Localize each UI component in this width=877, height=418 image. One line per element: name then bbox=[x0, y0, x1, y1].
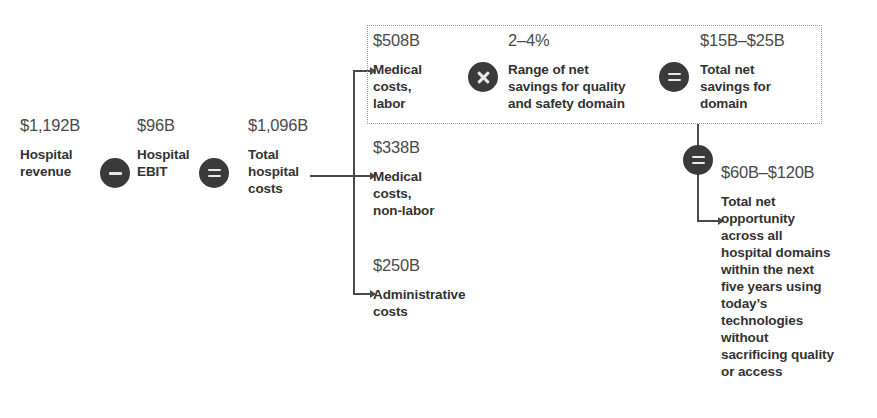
equals-glyph-top bbox=[668, 73, 681, 76]
minus-operator-icon bbox=[100, 158, 130, 188]
node-total-net-opportunity: $60B–$120B Total net opportunity across … bbox=[721, 163, 834, 380]
diagram-canvas: $1,192B Hospital revenue $96B Hospital E… bbox=[0, 0, 877, 418]
equals-glyph-top bbox=[208, 169, 221, 172]
equals-glyph-bottom bbox=[668, 79, 681, 82]
amount-medical-costs-labor: $508B bbox=[373, 31, 422, 50]
amount-medical-costs-nonlabor: $338B bbox=[373, 138, 434, 157]
connector-trunk bbox=[310, 175, 354, 177]
label-total-hospital-costs: Total hospital costs bbox=[248, 146, 308, 197]
connector-arm-total-opportunity bbox=[697, 220, 719, 222]
node-medical-costs-nonlabor: $338B Medical costs, non-labor bbox=[373, 138, 434, 219]
equals-glyph-top bbox=[692, 156, 705, 159]
label-medical-costs-nonlabor: Medical costs, non-labor bbox=[373, 168, 434, 219]
label-total-net-opportunity: Total net opportunity across all hospita… bbox=[721, 193, 834, 380]
amount-hospital-ebit: $96B bbox=[137, 116, 189, 135]
equals-glyph-bottom bbox=[208, 175, 221, 178]
node-hospital-ebit: $96B Hospital EBIT bbox=[137, 116, 189, 180]
multiply-operator-icon bbox=[468, 62, 498, 92]
label-hospital-ebit: Hospital EBIT bbox=[137, 146, 189, 180]
node-administrative-costs: $250B Administrative costs bbox=[373, 256, 465, 320]
equals-operator-icon-2 bbox=[659, 62, 689, 92]
label-range-net-savings: Range of net savings for quality and saf… bbox=[508, 61, 625, 112]
node-medical-costs-labor: $508B Medical costs, labor bbox=[373, 31, 422, 112]
node-range-net-savings: 2–4% Range of net savings for quality an… bbox=[508, 31, 625, 112]
connector-arm-nonlabor bbox=[353, 175, 371, 177]
equals-glyph-bottom bbox=[692, 162, 705, 165]
label-medical-costs-labor: Medical costs, labor bbox=[373, 61, 422, 112]
node-total-hospital-costs: $1,096B Total hospital costs bbox=[248, 116, 308, 197]
amount-total-hospital-costs: $1,096B bbox=[248, 116, 308, 135]
label-administrative-costs: Administrative costs bbox=[373, 286, 465, 320]
amount-hospital-revenue: $1,192B bbox=[20, 116, 80, 135]
node-hospital-revenue: $1,192B Hospital revenue bbox=[20, 116, 80, 180]
amount-total-net-opportunity: $60B–$120B bbox=[721, 163, 834, 182]
node-total-net-savings-domain: $15B–$25B Total net savings for domain bbox=[700, 31, 784, 112]
connector-arm-admin bbox=[353, 293, 371, 295]
equals-operator-icon-3 bbox=[683, 145, 713, 175]
minus-glyph bbox=[109, 172, 122, 175]
amount-range-net-savings: 2–4% bbox=[508, 31, 625, 50]
amount-total-net-savings-domain: $15B–$25B bbox=[700, 31, 784, 50]
equals-operator-icon-1 bbox=[199, 158, 229, 188]
label-hospital-revenue: Hospital revenue bbox=[20, 146, 80, 180]
amount-administrative-costs: $250B bbox=[373, 256, 465, 275]
connector-spine bbox=[353, 70, 355, 294]
label-total-net-savings-domain: Total net savings for domain bbox=[700, 61, 784, 112]
